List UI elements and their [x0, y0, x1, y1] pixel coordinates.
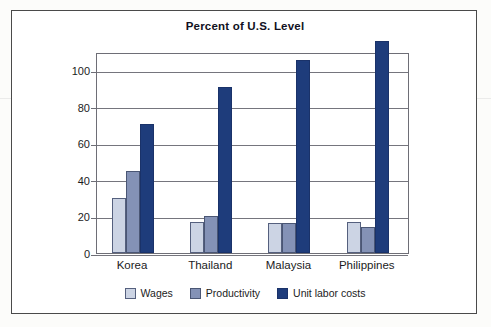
y-axis-tick-label: 80	[56, 102, 90, 114]
bar-korea-unit	[140, 124, 154, 253]
y-axis-tick-label: 20	[56, 211, 90, 223]
legend-label-productivity: Productivity	[206, 287, 260, 299]
figure-root: Percent of U.S. Level 020406080100 Korea…	[0, 0, 491, 327]
bar-philippines-productivity	[361, 227, 375, 253]
chart-frame: Percent of U.S. Level 020406080100 Korea…	[11, 10, 477, 314]
legend-item-productivity: Productivity	[190, 287, 260, 299]
legend-swatch-productivity-icon	[190, 288, 201, 299]
y-axis-tick	[91, 108, 97, 109]
bar-group-philippines	[347, 54, 389, 253]
x-axis-category-labels: KoreaThailandMalaysiaPhilippines	[96, 259, 409, 277]
y-axis-tick	[91, 145, 97, 146]
y-axis-tick-label: 60	[56, 138, 90, 150]
plot-area	[96, 53, 409, 254]
bar-group-korea	[112, 54, 154, 253]
bar-thailand-unit	[218, 87, 232, 253]
legend-item-unit: Unit labor costs	[277, 287, 365, 299]
x-axis-label-malaysia: Malaysia	[266, 259, 311, 271]
bar-thailand-wages	[190, 222, 204, 253]
y-axis-tick-label: 0	[56, 248, 90, 260]
gridline	[97, 255, 408, 256]
x-axis-label-korea: Korea	[117, 259, 148, 271]
bar-malaysia-productivity	[282, 223, 296, 253]
y-axis-tick-labels: 020406080100	[52, 53, 90, 254]
bar-philippines-unit	[375, 41, 389, 253]
chart-legend: WagesProductivityUnit labor costs	[12, 287, 478, 299]
x-axis-label-thailand: Thailand	[188, 259, 232, 271]
y-axis-tick	[91, 218, 97, 219]
legend-item-wages: Wages	[125, 287, 173, 299]
y-axis-tick	[91, 255, 97, 256]
x-axis-label-philippines: Philippines	[339, 259, 395, 271]
bar-malaysia-unit	[296, 60, 310, 253]
bar-korea-wages	[112, 198, 126, 253]
bar-malaysia-wages	[268, 223, 282, 253]
bar-korea-productivity	[126, 171, 140, 253]
legend-label-unit: Unit labor costs	[293, 287, 365, 299]
bar-thailand-productivity	[204, 216, 218, 253]
bar-group-thailand	[190, 54, 232, 253]
y-axis-tick	[91, 72, 97, 73]
y-axis-tick-label: 40	[56, 175, 90, 187]
legend-swatch-unit-icon	[277, 288, 288, 299]
chart-title: Percent of U.S. Level	[12, 20, 478, 32]
y-axis-tick	[91, 181, 97, 182]
legend-label-wages: Wages	[141, 287, 173, 299]
y-axis-tick-label: 100	[56, 65, 90, 77]
legend-swatch-wages-icon	[125, 288, 136, 299]
bar-group-malaysia	[268, 54, 310, 253]
bar-philippines-wages	[347, 222, 361, 253]
